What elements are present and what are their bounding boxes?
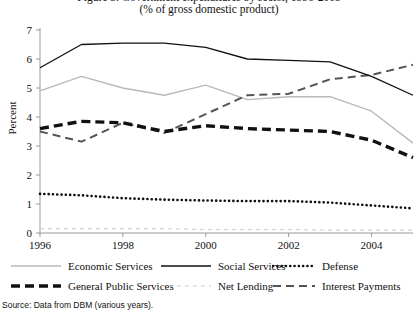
- series-line-net-lending: [40, 229, 413, 230]
- legend-swatch-dotted-black: [272, 260, 316, 272]
- legend-label: Interest Payments: [322, 280, 401, 292]
- x-tick-label: 2000: [184, 240, 228, 251]
- series-line-general-public-services: [40, 121, 413, 157]
- legend-item-general-public-services[interactable]: General Public Services: [10, 280, 174, 292]
- y-tick-label: 4: [10, 112, 32, 122]
- legend-row-bottom: General Public ServicesNet LendingIntere…: [0, 278, 418, 298]
- chart-legend: Economic ServicesSocial ServicesDefense …: [0, 258, 418, 298]
- legend-label: General Public Services: [68, 280, 174, 292]
- x-tick-label: 2004: [350, 240, 394, 251]
- legend-item-interest-payments[interactable]: Interest Payments: [272, 280, 401, 292]
- figure-container: Figure 3. Government expenditures by sec…: [0, 0, 418, 315]
- series-line-social-services: [40, 43, 413, 95]
- x-tick-label: 1998: [101, 240, 145, 251]
- legend-item-defense[interactable]: Defense: [272, 260, 358, 272]
- series-line-interest-payments: [40, 65, 413, 142]
- y-tick-label: 6: [10, 54, 32, 64]
- legend-swatch-dashed-lightgray: [160, 280, 212, 292]
- legend-swatch-thin-solid-gray: [10, 260, 62, 272]
- y-tick-label: 3: [10, 141, 32, 151]
- x-tick-label: 2002: [267, 240, 311, 251]
- legend-row-top: Economic ServicesSocial ServicesDefense: [0, 258, 418, 278]
- series-line-defense: [40, 194, 413, 209]
- x-tick-label: 1996: [18, 240, 62, 251]
- legend-label: Net Lending: [218, 280, 273, 292]
- legend-item-net-lending[interactable]: Net Lending: [160, 280, 273, 292]
- y-tick-label: 5: [10, 83, 32, 93]
- y-tick-label: 0: [10, 228, 32, 238]
- source-note: Source: Data from DBM (various years).: [2, 300, 153, 310]
- legend-item-economic-services[interactable]: Economic Services: [10, 260, 153, 272]
- y-tick-label: 1: [10, 199, 32, 209]
- y-tick-label: 7: [10, 25, 32, 35]
- plot-area: [0, 0, 418, 258]
- legend-swatch-thin-solid-black: [160, 260, 212, 272]
- legend-swatch-thick-dashed-black: [10, 280, 62, 292]
- legend-item-social-services[interactable]: Social Services: [160, 260, 286, 272]
- legend-swatch-dashed-gray: [272, 280, 316, 292]
- legend-label: Defense: [322, 260, 358, 272]
- y-tick-label: 2: [10, 170, 32, 180]
- legend-label: Economic Services: [68, 260, 153, 272]
- series-line-economic-services: [40, 76, 413, 143]
